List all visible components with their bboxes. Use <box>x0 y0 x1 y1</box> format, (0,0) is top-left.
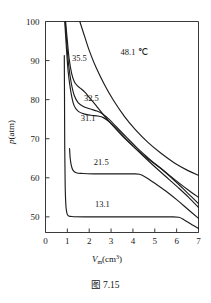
x-tick-label: 1 <box>65 236 70 246</box>
x-tick-label: 4 <box>131 236 136 246</box>
y-axis-title: p(atm) <box>6 120 16 145</box>
y-tick-label: 90 <box>31 56 41 66</box>
x-tick-label: 5 <box>153 236 158 246</box>
y-tick-label: 50 <box>31 212 41 222</box>
x-axis-title: Vm(cm3) <box>92 254 122 265</box>
svg-text:p(atm): p(atm) <box>6 120 16 145</box>
isotherm-label-35.5: 35.5 <box>72 53 87 63</box>
x-tick-label: 3 <box>109 236 114 246</box>
isotherm-chart: 5060708090100 01234567 48.1 ℃35.532.531.… <box>0 0 211 303</box>
y-tick-label: 100 <box>26 17 40 27</box>
x-tick-label: 2 <box>87 236 92 246</box>
x-tick-label: 6 <box>174 236 179 246</box>
isotherm-label-32.5: 32.5 <box>84 93 99 103</box>
isotherm-label-21.5: 21.5 <box>94 157 109 167</box>
y-tick-label: 60 <box>31 173 41 183</box>
y-tick-label: 70 <box>31 134 41 144</box>
y-tick-label: 80 <box>31 95 41 105</box>
x-tick-label: 0 <box>43 236 48 246</box>
x-axis-ticks: 01234567 <box>43 229 201 246</box>
svg-text:Vm(cm3): Vm(cm3) <box>92 254 122 265</box>
figure-caption: 图 7.15 <box>91 280 120 290</box>
isotherm-labels: 48.1 ℃35.532.531.121.513.1 <box>72 47 148 209</box>
figure-container: 5060708090100 01234567 48.1 ℃35.532.531.… <box>0 0 211 303</box>
isotherm-label-48.1: 48.1 ℃ <box>121 47 148 57</box>
x-tick-label: 7 <box>196 236 201 246</box>
isotherm-label-31.1: 31.1 <box>81 113 96 123</box>
isotherm-label-13.1: 13.1 <box>95 199 110 209</box>
